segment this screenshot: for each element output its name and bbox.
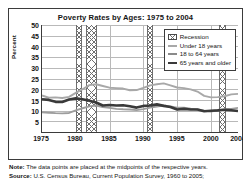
x-tick-2004: 2004 xyxy=(230,135,243,142)
figure-footer: Note: The data points are placed at the … xyxy=(9,163,242,180)
series-line-under-18-years xyxy=(42,83,238,98)
y-axis-label: Percent xyxy=(10,35,17,59)
recession-swatch-icon xyxy=(168,34,177,40)
footnote-source-label: Source: xyxy=(9,172,32,179)
y-tick-30: 30 xyxy=(31,65,39,72)
x-tick-1980: 1980 xyxy=(67,135,83,142)
footnote-source: Source: U.S. Census Bureau, Current Popu… xyxy=(9,172,242,181)
x-tick-2000: 2000 xyxy=(203,135,219,142)
line-swatch-icon xyxy=(168,62,177,64)
y-tick-10: 10 xyxy=(31,108,39,115)
legend-item-65-years-and-older: 65 years and older xyxy=(168,59,231,68)
legend-item-recession: Recession xyxy=(168,33,231,42)
y-tick-50: 50 xyxy=(31,22,39,29)
legend-item-18-to-64-years: 18 to 64 years xyxy=(168,50,231,59)
line-swatch-icon xyxy=(168,45,177,47)
chart-legend: RecessionUnder 18 years18 to 64 years65 … xyxy=(164,29,236,71)
legend-label: Under 18 years xyxy=(180,43,222,49)
legend-label: 65 years and older xyxy=(180,60,231,66)
y-tick-15: 15 xyxy=(31,97,39,104)
y-tick-20: 20 xyxy=(31,86,39,93)
footnote-source-text: U.S. Census Bureau, Current Population S… xyxy=(32,172,204,179)
legend-label: Recession xyxy=(180,34,209,40)
y-tick-35: 35 xyxy=(31,54,39,61)
x-tick-1985: 1985 xyxy=(101,135,117,142)
x-tick-1990: 1990 xyxy=(135,135,151,142)
footnote-note: Note: The data points are placed at the … xyxy=(9,163,242,172)
y-tick-5: 5 xyxy=(35,119,39,126)
chart-title: Poverty Rates by Ages: 1975 to 2004 xyxy=(9,9,242,25)
footnote-note-text: The data points are placed at the midpoi… xyxy=(25,163,208,170)
y-tick-40: 40 xyxy=(31,43,39,50)
plot-area: Percent 5045403530252015105 197519801985… xyxy=(9,25,242,147)
y-axis-ticks: 5045403530252015105 xyxy=(18,25,39,133)
legend-item-under-18-years: Under 18 years xyxy=(168,42,231,51)
legend-label: 18 to 64 years xyxy=(180,51,219,57)
x-axis-ticks: 1975198019851990199520002004 xyxy=(41,135,238,147)
y-tick-45: 45 xyxy=(31,32,39,39)
poverty-rates-figure: Poverty Rates by Ages: 1975 to 2004 Perc… xyxy=(0,0,243,190)
y-tick-25: 25 xyxy=(31,76,39,83)
footnote-note-label: Note: xyxy=(9,163,25,170)
chart-card: Poverty Rates by Ages: 1975 to 2004 Perc… xyxy=(8,8,243,160)
x-tick-1975: 1975 xyxy=(33,135,49,142)
x-tick-1995: 1995 xyxy=(169,135,185,142)
line-swatch-icon xyxy=(168,53,177,55)
